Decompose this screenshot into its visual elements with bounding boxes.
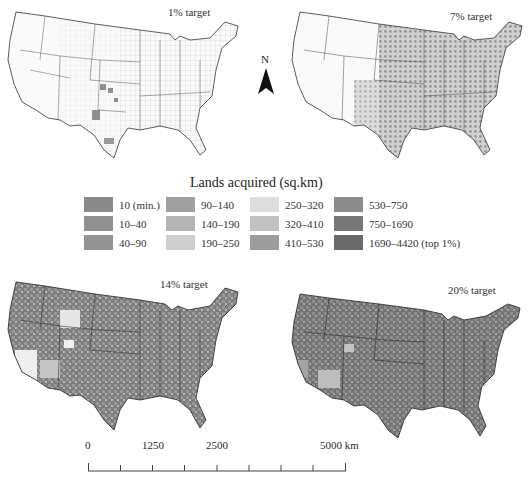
legend-item: 1690–4420 (top 1%) — [334, 235, 460, 250]
panel-title: 14% target — [160, 278, 208, 290]
legend-swatch — [250, 235, 279, 250]
panel-title: 20% target — [448, 284, 496, 296]
legend-label: 40–90 — [119, 237, 147, 249]
legend-item: 140–190 — [166, 216, 240, 231]
legend-swatch — [250, 216, 279, 231]
legend-swatch — [84, 197, 113, 212]
scale-label-2500: 2500 — [206, 439, 228, 451]
legend-swatch — [166, 235, 195, 250]
legend-label: 530–750 — [369, 199, 408, 211]
us-map-14pct — [0, 270, 264, 440]
us-map-7pct — [264, 0, 528, 170]
legend-swatch — [166, 216, 195, 231]
legend-swatch — [84, 235, 113, 250]
legend-item: 750–1690 — [334, 216, 413, 231]
scale-label-1250: 1250 — [142, 439, 164, 451]
map-panel-20pct: 20% target — [264, 270, 528, 440]
panel-title: 1% target — [168, 6, 210, 18]
legend-label: 320–410 — [285, 218, 324, 230]
legend-swatch — [166, 197, 195, 212]
legend-item: 250–320 — [250, 197, 324, 212]
legend-item: 190–250 — [166, 235, 240, 250]
us-map-1pct — [0, 0, 264, 170]
legend-label: 140–190 — [201, 218, 240, 230]
legend-swatch — [334, 235, 363, 250]
legend-label: 190–250 — [201, 237, 240, 249]
legend-swatch — [334, 197, 363, 212]
legend-item: 90–140 — [166, 197, 234, 212]
scale-label-0: 0 — [85, 439, 91, 451]
scale-bar: 0 1250 2500 5000 km — [88, 445, 368, 475]
legend-item: 320–410 — [250, 216, 324, 231]
legend-label: 10 (min.) — [119, 199, 160, 211]
panel-title: 7% target — [450, 10, 492, 22]
legend-swatch — [250, 197, 279, 212]
legend-label: 90–140 — [201, 199, 234, 211]
legend-label: 250–320 — [285, 199, 324, 211]
legend-label: 1690–4420 (top 1%) — [369, 237, 460, 249]
legend-item: 530–750 — [334, 197, 408, 212]
legend-swatch — [84, 216, 113, 231]
scale-bar-ruler — [88, 457, 368, 477]
legend-label: 410–530 — [285, 237, 324, 249]
legend-title: Lands acquired (sq.km) — [190, 175, 323, 191]
legend-label: 750–1690 — [369, 218, 413, 230]
legend-item: 10 (min.) — [84, 197, 160, 212]
legend-label: 10–40 — [119, 218, 147, 230]
legend-item: 410–530 — [250, 235, 324, 250]
legend-item: 10–40 — [84, 216, 147, 231]
legend-swatch — [334, 216, 363, 231]
map-panel-7pct: 7% target — [264, 0, 528, 170]
scale-label-5000: 5000 km — [320, 439, 359, 451]
map-panel-1pct: 1% target — [0, 0, 264, 170]
legend-item: 40–90 — [84, 235, 147, 250]
map-panel-14pct: 14% target — [0, 270, 264, 440]
